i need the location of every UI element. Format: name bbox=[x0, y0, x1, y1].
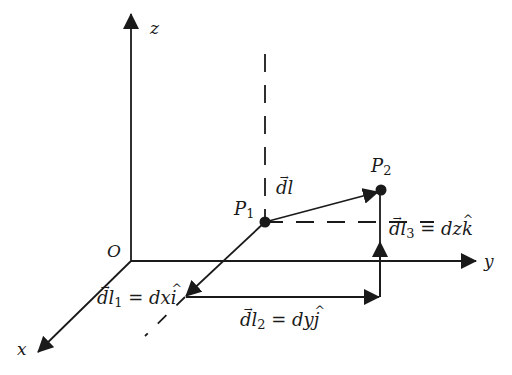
dl3-label: dl3 = dzk bbox=[389, 220, 473, 241]
dl1-vector bbox=[186, 222, 265, 296]
z-axis-label: z bbox=[150, 20, 159, 37]
x-axis-label: x bbox=[17, 341, 27, 358]
p2-label: P2 bbox=[371, 157, 391, 178]
dl1-label: dl1 = dxi bbox=[97, 289, 177, 310]
origin-label: O bbox=[107, 243, 121, 260]
p1-label: P1 bbox=[234, 200, 254, 221]
point-p2 bbox=[376, 185, 387, 196]
dl2-label: dl2 = dyj bbox=[240, 311, 319, 332]
point-p1 bbox=[260, 217, 271, 228]
dl-label: dl bbox=[276, 179, 293, 197]
y-axis-label: y bbox=[484, 253, 494, 270]
